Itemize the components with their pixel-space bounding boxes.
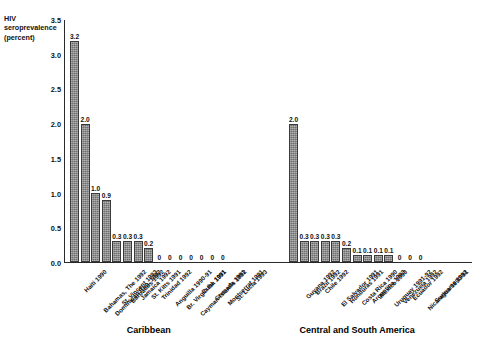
bar [331, 241, 340, 262]
bar-item: 0 [176, 19, 185, 262]
bar [353, 255, 362, 262]
bar-value-label: 0 [189, 254, 193, 261]
bar-value-label: 0.2 [342, 240, 351, 247]
bar-value-label: 2.0 [289, 116, 298, 123]
y-axis-title-line-2: seroprevalence [4, 23, 60, 32]
y-tick-2.5: 2.5 [51, 85, 61, 94]
bar-item: 0 [208, 19, 217, 262]
bar-value-label: 0.1 [384, 247, 393, 254]
bar [384, 255, 393, 262]
bar-item: 0 [155, 19, 164, 262]
bar-value-label: 0.3 [321, 233, 330, 240]
y-tick-1.5: 1.5 [51, 154, 61, 163]
bar [123, 241, 132, 262]
bar [70, 41, 79, 262]
bar-value-label: 0 [157, 254, 161, 261]
bar-item: 0.3 [134, 19, 143, 262]
bar-item: 0.1 [363, 19, 372, 262]
bar-value-label: 0.1 [374, 247, 383, 254]
bar-item: 0 [416, 19, 425, 262]
bar-value-label: 1.0 [91, 185, 100, 192]
y-axis-title-line-3: (percent) [4, 33, 60, 42]
bar-item: 0.3 [123, 19, 132, 262]
bar-item: 0.2 [144, 19, 153, 262]
bar [112, 241, 121, 262]
bar-item: 0 [395, 19, 404, 262]
bar [102, 200, 111, 262]
bar-item: 0.3 [310, 19, 319, 262]
bar [91, 193, 100, 262]
bar [289, 124, 298, 262]
bar [81, 124, 90, 262]
bar-value-label: 0 [210, 254, 214, 261]
bar-value-label: 0.2 [144, 240, 153, 247]
y-tick-0.0: 0.0 [51, 259, 61, 268]
bar [321, 241, 330, 262]
bar [134, 241, 143, 262]
plot-area: 0.00.51.01.52.02.53.03.5 3.22.01.00.90.3… [64, 20, 472, 263]
bar-value-label: 0.3 [134, 233, 143, 240]
category-label: Haiti 1990 [83, 268, 108, 293]
y-tick-1.0: 1.0 [51, 189, 61, 198]
bar-item: 0 [406, 19, 415, 262]
bar-item: 0.3 [321, 19, 330, 262]
bar [144, 248, 153, 262]
bar-item: 2.0 [81, 19, 90, 262]
bar [310, 241, 319, 262]
bar [300, 241, 309, 262]
bar-item: 0 [165, 19, 174, 262]
bar-item: 0.3 [300, 19, 309, 262]
bar-item: 0.1 [384, 19, 393, 262]
bar-item: 0.1 [353, 19, 362, 262]
y-tick-0.5: 0.5 [51, 224, 61, 233]
bar-value-label: 0 [398, 254, 402, 261]
bar-item: 0.1 [374, 19, 383, 262]
x-axis-line [64, 262, 472, 263]
bar-item: 0.2 [342, 19, 351, 262]
bar-value-label: 0 [168, 254, 172, 261]
bar-value-label: 0 [200, 254, 204, 261]
bar-value-label: 0.3 [310, 233, 319, 240]
bar-value-label: 0.1 [353, 247, 362, 254]
bar-value-label: 0 [179, 254, 183, 261]
bar-item: 0.3 [112, 19, 121, 262]
bar-item: 0.3 [331, 19, 340, 262]
hiv-seroprevalence-bar-chart: HIV seroprevalence (percent) 0.00.51.01.… [0, 0, 487, 352]
bar-value-label: 0 [419, 254, 423, 261]
bar-value-label: 0.3 [300, 233, 309, 240]
bar-value-label: 0.3 [112, 233, 121, 240]
bar [363, 255, 372, 262]
bar-item: 0 [197, 19, 206, 262]
bar-value-label: 0 [408, 254, 412, 261]
bar-value-label: 0.3 [331, 233, 340, 240]
bar-item: 1.0 [91, 19, 100, 262]
bar-value-label: 0.1 [363, 247, 372, 254]
bar [342, 248, 351, 262]
bar-item: 0 [187, 19, 196, 262]
bar-item: 0.9 [102, 19, 111, 262]
bar-item: 2.0 [289, 19, 298, 262]
y-tick-3.5: 3.5 [51, 16, 61, 25]
bar-value-label: 2.0 [81, 116, 90, 123]
bars-layer: 3.22.01.00.90.30.30.30.200000002.00.30.3… [64, 20, 472, 262]
bar-value-label: 0.3 [123, 233, 132, 240]
bar-item: 0 [218, 19, 227, 262]
group-label-central-and-south-america: Central and South America [299, 325, 414, 335]
group-label-caribbean: Caribbean [127, 325, 171, 335]
bar-value-label: 0.9 [102, 192, 111, 199]
bar [374, 255, 383, 262]
bar-item: 3.2 [70, 19, 79, 262]
bar-value-label: 0 [221, 254, 225, 261]
y-tick-3.0: 3.0 [51, 50, 61, 59]
bar-value-label: 3.2 [70, 33, 79, 40]
y-tick-2.0: 2.0 [51, 120, 61, 129]
